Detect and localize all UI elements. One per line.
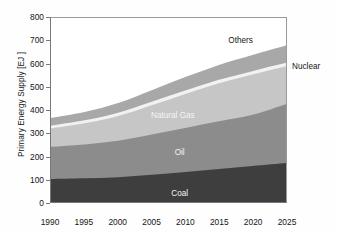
x-tick-label-2020: 2020 <box>244 217 263 227</box>
plot-area: OthersNatural GasOilCoal <box>50 17 287 203</box>
y-tick-label-0: 0 <box>0 198 44 208</box>
y-tick-label-600: 600 <box>0 59 44 69</box>
x-tick-label-2010: 2010 <box>176 217 195 227</box>
y-tick-label-400: 400 <box>0 105 44 115</box>
stacked-area-bands <box>51 18 286 202</box>
y-tick-label-100: 100 <box>0 175 44 185</box>
x-tick-label-2015: 2015 <box>210 217 229 227</box>
x-tick-label-1995: 1995 <box>75 217 94 227</box>
y-tick-mark-200 <box>46 157 50 158</box>
x-tick-label-2005: 2005 <box>142 217 161 227</box>
y-tick-mark-100 <box>46 180 50 181</box>
y-tick-mark-700 <box>46 40 50 41</box>
x-tick-label-2000: 2000 <box>108 217 127 227</box>
y-tick-label-200: 200 <box>0 152 44 162</box>
series-label-nuclear: Nuclear <box>292 62 320 71</box>
y-tick-mark-0 <box>46 203 50 204</box>
x-tick-label-2025: 2025 <box>278 217 297 227</box>
y-tick-mark-500 <box>46 87 50 88</box>
y-tick-label-700: 700 <box>0 35 44 45</box>
y-tick-mark-800 <box>46 17 50 18</box>
y-tick-label-800: 800 <box>0 12 44 22</box>
y-tick-mark-600 <box>46 64 50 65</box>
y-tick-label-500: 500 <box>0 82 44 92</box>
x-tick-label-1990: 1990 <box>41 217 60 227</box>
chart-figure: Primary Energy Supply [EJ ] OthersNatura… <box>0 0 337 233</box>
y-tick-mark-400 <box>46 110 50 111</box>
y-tick-label-300: 300 <box>0 128 44 138</box>
y-tick-mark-300 <box>46 133 50 134</box>
